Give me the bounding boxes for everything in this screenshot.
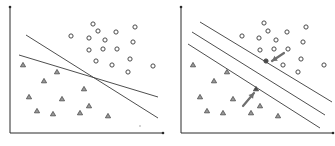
triangle-point bbox=[230, 96, 235, 100]
stray-dot bbox=[139, 125, 140, 126]
circle-point bbox=[262, 21, 266, 25]
circle-point bbox=[240, 34, 244, 38]
x-axis-arrow-icon bbox=[332, 132, 335, 135]
panel-arbitrary-separators bbox=[9, 6, 165, 135]
circle-point bbox=[96, 29, 100, 33]
circle-point bbox=[131, 40, 135, 44]
decision-boundary bbox=[192, 32, 325, 115]
triangle-point bbox=[257, 103, 262, 107]
triangle-point bbox=[86, 103, 91, 107]
circle-point bbox=[285, 30, 289, 34]
triangle-point bbox=[190, 62, 195, 66]
triangle-point bbox=[20, 62, 25, 66]
circle-point bbox=[286, 47, 290, 51]
circle-point bbox=[272, 47, 276, 51]
circle-point bbox=[69, 34, 73, 38]
triangle-point bbox=[204, 108, 209, 112]
triangle-point bbox=[77, 110, 82, 114]
triangle-point bbox=[54, 69, 59, 73]
arrow-to-triangle-support-vector-icon bbox=[243, 93, 254, 106]
y-axis-arrow-icon bbox=[9, 6, 12, 9]
svm-diagram bbox=[0, 0, 335, 146]
circle-point bbox=[151, 64, 155, 68]
circle-point bbox=[103, 38, 107, 42]
circle-point bbox=[110, 63, 114, 67]
circle-point bbox=[114, 30, 118, 34]
panel-max-margin bbox=[180, 6, 335, 135]
circle-point bbox=[281, 63, 285, 67]
circle-point bbox=[87, 36, 91, 40]
arrow-to-circle-support-vector-icon bbox=[272, 53, 284, 61]
x-axis-arrow-icon bbox=[162, 132, 165, 135]
circle-point bbox=[301, 40, 305, 44]
circle-point bbox=[299, 57, 303, 61]
triangle-point bbox=[50, 111, 55, 115]
circle-point bbox=[266, 29, 270, 33]
circle-point bbox=[126, 70, 130, 74]
triangle-point bbox=[220, 110, 225, 114]
triangle-point bbox=[275, 113, 280, 117]
support-vector-circle bbox=[264, 59, 268, 63]
circle-point bbox=[258, 48, 262, 52]
triangle-point bbox=[211, 78, 216, 82]
steep-separator bbox=[26, 35, 158, 118]
circle-point bbox=[94, 59, 98, 63]
triangle-point bbox=[197, 94, 202, 98]
triangle-point bbox=[41, 78, 46, 82]
triangle-point bbox=[34, 108, 39, 112]
triangle-point bbox=[59, 96, 64, 100]
triangle-point bbox=[26, 94, 31, 98]
circle-point bbox=[101, 47, 105, 51]
circle-point bbox=[87, 48, 91, 52]
diagram-svg bbox=[0, 0, 335, 146]
circle-point bbox=[91, 22, 95, 26]
circle-point bbox=[304, 25, 308, 29]
circle-point bbox=[296, 70, 300, 74]
circle-point bbox=[274, 38, 278, 42]
circle-point bbox=[257, 36, 261, 40]
triangle-point bbox=[81, 86, 86, 90]
circle-point bbox=[115, 47, 119, 51]
shallow-separator bbox=[19, 55, 158, 97]
circle-point bbox=[322, 63, 326, 67]
circle-point bbox=[133, 25, 137, 29]
triangle-point bbox=[105, 113, 110, 117]
circle-point bbox=[128, 57, 132, 61]
y-axis-arrow-icon bbox=[180, 6, 183, 9]
triangle-point bbox=[248, 110, 253, 114]
